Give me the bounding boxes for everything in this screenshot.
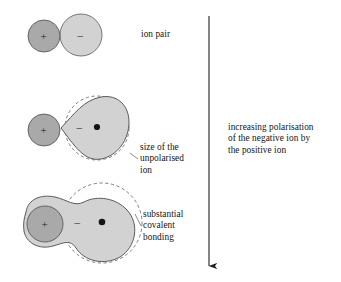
row-ion-pair	[28, 14, 102, 56]
positive-charge-symbol: +	[41, 31, 47, 42]
caption-substantial-covalent-bonding: substantial covalent bonding	[143, 209, 183, 243]
covalent-leader-line	[135, 214, 141, 226]
negative-ion-nucleus-dot	[94, 124, 100, 130]
unpolarised-leader-line	[130, 153, 138, 159]
negative-charge-symbol: –	[75, 217, 81, 228]
negative-ion-nucleus-dot	[99, 219, 106, 226]
caption-ion-pair: ion pair	[141, 29, 170, 40]
negative-charge-symbol: –	[77, 122, 83, 133]
positive-charge-symbol: +	[42, 219, 48, 230]
ion-polarisation-figure: + – + – + – ion pair size of the unpolar…	[0, 0, 341, 282]
caption-increasing-polarisation: increasing polarisation of the negative …	[228, 122, 314, 156]
negative-charge-symbol: –	[78, 30, 84, 41]
positive-charge-symbol: +	[41, 125, 47, 136]
caption-unpolarised-ion-size: size of the unpolarised ion	[140, 142, 184, 176]
